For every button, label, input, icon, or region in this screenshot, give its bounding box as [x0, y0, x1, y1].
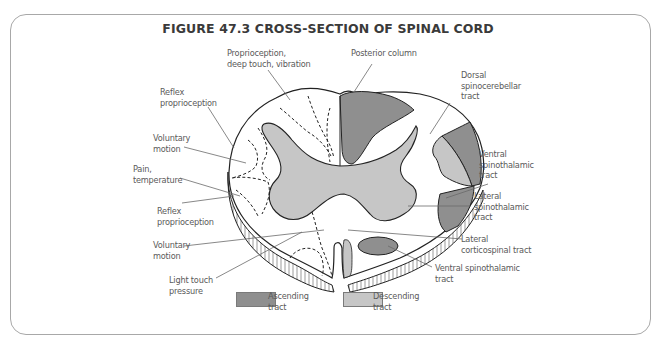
anterior-descending-region: [343, 240, 352, 278]
label-ventral-spinothalamic-tract-upper: Ventral spinothalamic tract: [479, 149, 534, 181]
spinal-cord-diagram: [0, 0, 656, 340]
label-voluntary-motion-lower: Voluntary motion: [153, 240, 190, 261]
label-lateral-corticospinal-tract: Lateral corticospinal tract: [461, 234, 531, 255]
label-pain-temperature: Pain, temperature: [133, 164, 182, 185]
label-proprioception-deep-touch-vibration: Proprioception, deep touch, vibration: [227, 48, 311, 69]
label-reflex-proprioception-upper: Reflex proprioception: [160, 87, 217, 108]
label-posterior-column: Posterior column: [351, 48, 417, 59]
label-dorsal-spinocerebellar-tract: Dorsal spinocerebellar tract: [461, 70, 521, 102]
label-voluntary-motion-upper: Voluntary motion: [153, 133, 190, 154]
ventral-spinothalamic-region: [358, 237, 398, 255]
label-light-touch-pressure: Light touch pressure: [169, 275, 213, 296]
legend-label-ascending: Ascending tract: [268, 291, 309, 312]
label-ventral-spinothalamic-tract-lower: Ventral spinothalamic tract: [435, 263, 520, 284]
legend-label-descending: Descending tract: [373, 291, 419, 312]
label-reflex-proprioception-lower: Reflex proprioception: [157, 206, 214, 227]
label-lateral-spinothalamic-tract: Lateral spinothalamic tract: [474, 191, 529, 223]
